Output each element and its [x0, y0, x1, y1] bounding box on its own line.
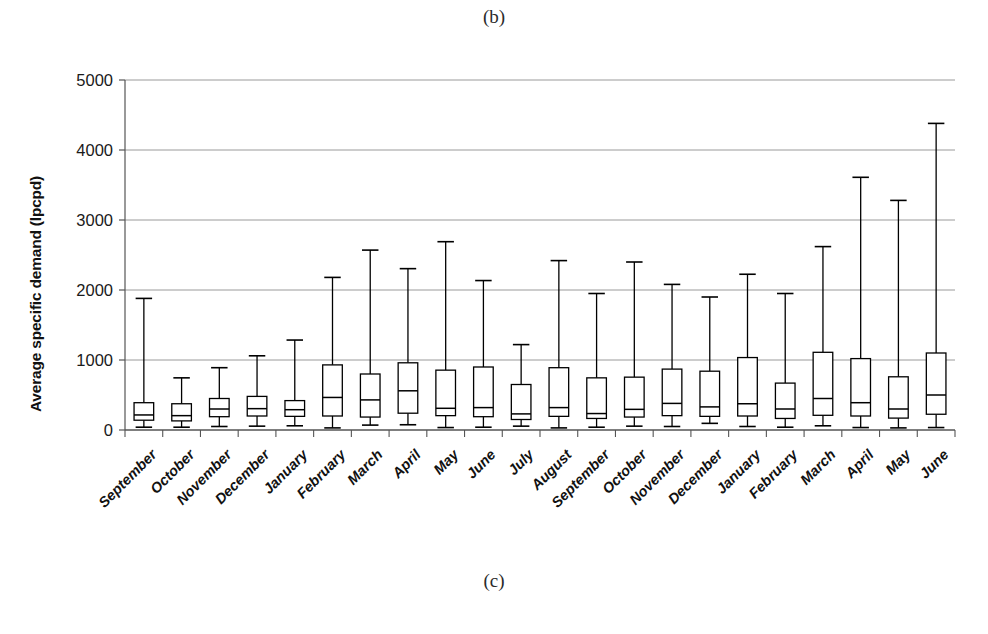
figure-panel: (b) Average specific demand (lpcpd) 0100…: [0, 0, 988, 634]
box-iqr: [851, 359, 871, 416]
box-plot-item: [851, 177, 871, 427]
box-iqr: [926, 353, 946, 414]
box-plot-series: [134, 123, 946, 428]
box-plot-item: [926, 123, 946, 427]
box-iqr: [285, 401, 305, 417]
figure-caption-bottom: (c): [0, 570, 988, 592]
box-plot-item: [738, 274, 758, 426]
box-iqr: [587, 378, 607, 419]
figure-caption-top: (b): [0, 6, 988, 28]
box-plot-item: [323, 277, 343, 428]
box-plot-item: [247, 356, 267, 426]
y-tick-label: 1000: [76, 351, 113, 369]
x-tick-marks: [125, 430, 955, 437]
chart-canvas: 010002000300040005000: [0, 40, 988, 560]
box-iqr: [889, 377, 909, 418]
y-tick-label: 3000: [76, 211, 113, 229]
box-iqr: [398, 363, 418, 413]
box-iqr: [775, 383, 795, 418]
box-plot-item: [474, 281, 494, 428]
box-iqr: [247, 396, 267, 416]
y-tick-label: 2000: [76, 281, 113, 299]
box-plot-item: [813, 247, 833, 426]
box-iqr: [625, 377, 645, 417]
box-plot-item: [549, 261, 569, 428]
box-iqr: [700, 371, 720, 416]
y-tick-marks: [119, 80, 125, 430]
box-iqr: [662, 369, 682, 416]
box-plot-item: [360, 250, 380, 425]
y-tick-label: 0: [104, 421, 113, 439]
y-tick-labels: 010002000300040005000: [76, 71, 113, 439]
box-iqr: [813, 352, 833, 415]
box-plot-item: [889, 200, 909, 428]
box-plot-chart: Average specific demand (lpcpd) 01000200…: [0, 40, 988, 560]
box-iqr: [172, 404, 192, 421]
box-iqr: [360, 374, 380, 417]
box-plot-item: [662, 284, 682, 426]
y-tick-label: 5000: [76, 71, 113, 89]
box-iqr: [210, 399, 230, 417]
box-plot-item: [398, 269, 418, 425]
box-plot-item: [625, 262, 645, 426]
box-plot-item: [511, 345, 531, 427]
box-iqr: [323, 365, 343, 416]
gridlines: [125, 80, 955, 360]
box-iqr: [549, 368, 569, 417]
box-iqr: [738, 358, 758, 416]
box-iqr: [134, 403, 154, 421]
box-iqr: [474, 367, 494, 417]
box-plot-item: [285, 340, 305, 426]
y-tick-label: 4000: [76, 141, 113, 159]
box-plot-item: [436, 242, 456, 428]
box-plot-item: [172, 378, 192, 427]
box-plot-item: [210, 368, 230, 427]
box-plot-item: [134, 298, 154, 427]
